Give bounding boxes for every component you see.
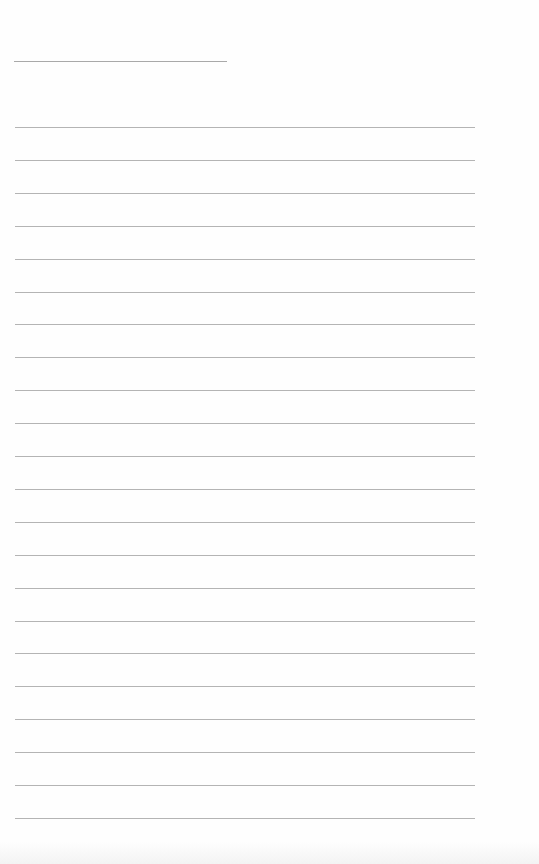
ruled-line <box>15 324 475 325</box>
lined-paper-page <box>0 0 539 864</box>
ruled-line <box>15 292 475 293</box>
ruled-line <box>15 259 475 260</box>
ruled-line <box>15 357 475 358</box>
ruled-line <box>15 555 475 556</box>
ruled-line <box>15 456 475 457</box>
ruled-line <box>15 818 475 819</box>
ruled-line <box>15 719 475 720</box>
ruled-line <box>15 160 475 161</box>
ruled-line <box>15 653 475 654</box>
ruled-line <box>15 588 475 589</box>
ruled-line <box>15 489 475 490</box>
ruled-line <box>15 785 475 786</box>
ruled-line <box>15 522 475 523</box>
ruled-line <box>15 423 475 424</box>
ruled-line <box>15 226 475 227</box>
title-line <box>14 61 227 62</box>
ruled-line <box>15 193 475 194</box>
ruled-line <box>15 621 475 622</box>
ruled-line <box>15 752 475 753</box>
ruled-line <box>15 390 475 391</box>
ruled-line <box>15 127 475 128</box>
ruled-line <box>15 686 475 687</box>
